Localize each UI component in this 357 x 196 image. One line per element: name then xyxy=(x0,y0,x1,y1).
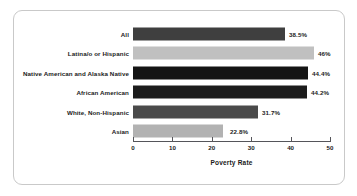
x-axis-tick xyxy=(330,137,331,142)
category-label-all: All xyxy=(121,30,129,37)
x-axis-title: Poverty Rate xyxy=(133,159,330,166)
bar-row: African American 44.2% xyxy=(0,83,357,103)
bar-row: White, Non-Hispanic 31.7% xyxy=(0,102,357,122)
value-label-white-non-hispanic: 31.7% xyxy=(262,108,280,115)
x-axis-tick xyxy=(172,137,173,142)
x-axis-tick xyxy=(291,137,292,142)
x-axis-tick xyxy=(133,137,134,142)
category-label-african-american: African American xyxy=(76,89,129,96)
value-label-african-american: 44.2% xyxy=(311,89,329,96)
category-label-latina-or-hispanic: Latina/o or Hispanic xyxy=(68,50,129,57)
plot-area: All 38.5% Latina/o or Hispanic 46% Nativ… xyxy=(0,0,357,196)
value-label-native-american-and-alaska-native: 44.4% xyxy=(312,69,330,76)
category-label-asian: Asian xyxy=(112,128,129,135)
x-axis-tick xyxy=(251,137,252,142)
x-axis-tick-label: 40 xyxy=(287,144,294,151)
bar-row: Asian 22.8% xyxy=(0,122,357,142)
x-axis-tick-label: 50 xyxy=(327,144,334,151)
value-label-latina-or-hispanic: 46% xyxy=(318,50,331,57)
value-label-all: 38.5% xyxy=(289,30,307,37)
x-axis-tick-label: 30 xyxy=(248,144,255,151)
bar-row: Latina/o or Hispanic 46% xyxy=(0,44,357,64)
bar-asian xyxy=(133,125,223,138)
bar-latina-or-hispanic xyxy=(133,47,314,60)
x-axis-line xyxy=(133,141,330,142)
x-axis-tick xyxy=(212,137,213,142)
x-axis-tick-label: 0 xyxy=(131,144,134,151)
bar-all xyxy=(133,27,285,40)
category-label-native-american-and-alaska-native: Native American and Alaska Native xyxy=(23,69,129,76)
bar-native-american-and-alaska-native xyxy=(133,66,308,79)
bar-row: Native American and Alaska Native 44.4% xyxy=(0,63,357,83)
bar-african-american xyxy=(133,86,307,99)
x-axis-tick-label: 10 xyxy=(169,144,176,151)
value-label-asian: 22.8% xyxy=(230,128,248,135)
category-label-white-non-hispanic: White, Non-Hispanic xyxy=(67,108,129,115)
chart-figure: All 38.5% Latina/o or Hispanic 46% Nativ… xyxy=(0,0,357,196)
x-axis-tick-label: 20 xyxy=(208,144,215,151)
bar-row: All 38.5% xyxy=(0,24,357,44)
bar-white-non-hispanic xyxy=(133,105,258,118)
